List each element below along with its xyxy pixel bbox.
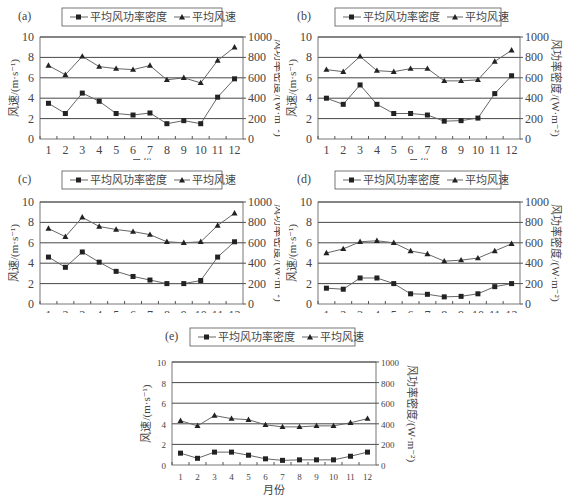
y-tick-right: 600: [248, 71, 266, 85]
data-point: [408, 65, 414, 70]
y-tick-left: 0: [306, 297, 312, 311]
y-tick-left: 10: [157, 358, 167, 368]
x-tick: 5: [113, 143, 119, 157]
x-tick: 5: [246, 472, 251, 482]
data-point: [475, 116, 480, 121]
data-point: [492, 58, 498, 63]
x-tick: 7: [280, 472, 285, 482]
x-tick: 11: [212, 143, 224, 157]
y-axis-label-right: 风功率密度/(W·m⁻²): [272, 39, 280, 136]
data-point: [425, 292, 430, 297]
data-point: [147, 110, 152, 115]
data-point: [323, 66, 329, 71]
y-tick-right: 800: [525, 215, 543, 229]
data-point: [314, 457, 319, 462]
data-point: [341, 102, 346, 107]
speed-line: [326, 50, 511, 81]
data-point: [509, 241, 515, 246]
y-tick-right: 0: [525, 297, 531, 311]
chart-panel-b: (b)平均风功率密度平均风速00220044006600880010100012…: [280, 0, 563, 164]
data-point: [97, 99, 102, 104]
x-tick: 9: [181, 308, 187, 313]
data-point: [80, 91, 85, 96]
x-tick: 11: [489, 143, 501, 157]
x-tick: 11: [489, 308, 501, 313]
y-tick-left: 0: [306, 132, 312, 146]
x-tick: 1: [45, 308, 51, 313]
data-point: [212, 412, 218, 417]
x-tick: 7: [147, 143, 153, 157]
x-tick: 6: [408, 143, 414, 157]
x-tick: 2: [195, 472, 200, 482]
y-tick-right: 200: [381, 440, 395, 450]
data-point: [280, 458, 285, 463]
legend-speed-label: 平均风速: [465, 174, 509, 186]
x-tick: 4: [229, 472, 234, 482]
data-point: [45, 225, 51, 230]
data-point: [181, 281, 186, 286]
y-tick-right: 400: [525, 91, 543, 105]
x-tick: 1: [323, 308, 329, 313]
panel-label: (d): [297, 172, 311, 186]
y-tick-left: 10: [300, 30, 312, 44]
x-tick: 12: [506, 308, 518, 313]
y-tick-right: 600: [525, 71, 543, 85]
x-tick: 11: [212, 308, 224, 313]
data-point: [358, 82, 363, 87]
data-point: [96, 63, 102, 68]
x-tick: 2: [340, 308, 346, 313]
y-tick-left: 8: [306, 215, 312, 229]
data-point: [365, 415, 371, 420]
data-point: [114, 269, 119, 274]
x-tick: 10: [329, 472, 339, 482]
data-point: [374, 275, 379, 280]
chart-panel-a: (a)平均风功率密度平均风速00220044006600880010100012…: [0, 0, 280, 164]
legend-density-label: 平均风功率密度: [90, 173, 167, 186]
x-tick: 7: [147, 308, 153, 313]
x-tick: 8: [297, 472, 302, 482]
x-axis-label: 月份: [131, 158, 153, 160]
x-tick: 9: [458, 143, 464, 157]
panel-label: (e): [165, 329, 178, 343]
y-tick-right: 600: [248, 236, 266, 250]
square-marker-icon: [204, 335, 209, 340]
density-line: [181, 452, 368, 460]
y-tick-left: 6: [306, 71, 312, 85]
y-tick-left: 2: [306, 112, 312, 126]
panel-label: (c): [18, 172, 31, 186]
data-point: [215, 255, 220, 260]
y-tick-right: 800: [381, 379, 395, 389]
x-tick: 2: [62, 143, 68, 157]
y-tick-right: 400: [248, 256, 266, 270]
y-axis-label-left: 风速/(m·s⁻¹): [286, 59, 299, 117]
y-tick-right: 0: [248, 132, 254, 146]
x-tick: 6: [263, 472, 268, 482]
y-tick-left: 6: [28, 71, 34, 85]
y-tick-left: 6: [162, 399, 167, 409]
data-point: [324, 286, 329, 291]
y-axis-label-right: 风功率密度/(W·m⁻²): [549, 39, 563, 136]
plot-frame: [318, 37, 520, 139]
data-point: [442, 294, 447, 299]
x-tick: 10: [195, 308, 207, 313]
data-point: [232, 239, 237, 244]
data-point: [408, 291, 413, 296]
x-tick: 4: [96, 143, 102, 157]
data-point: [357, 53, 363, 58]
square-marker-icon: [349, 15, 354, 20]
data-point: [131, 113, 136, 118]
y-axis-label-left: 风速/(m·s⁻¹): [140, 384, 153, 442]
y-tick-left: 8: [28, 215, 34, 229]
x-tick: 3: [212, 472, 217, 482]
legend-speed-label: 平均风速: [192, 174, 236, 186]
data-point: [331, 457, 336, 462]
x-tick: 10: [472, 143, 484, 157]
data-point: [215, 57, 221, 62]
y-tick-right: 200: [248, 277, 266, 291]
y-tick-left: 2: [306, 277, 312, 291]
data-point: [459, 294, 464, 299]
y-tick-right: 600: [381, 399, 395, 409]
x-tick: 3: [79, 308, 85, 313]
plot-frame: [40, 202, 243, 304]
panel-label: (b): [297, 9, 311, 23]
